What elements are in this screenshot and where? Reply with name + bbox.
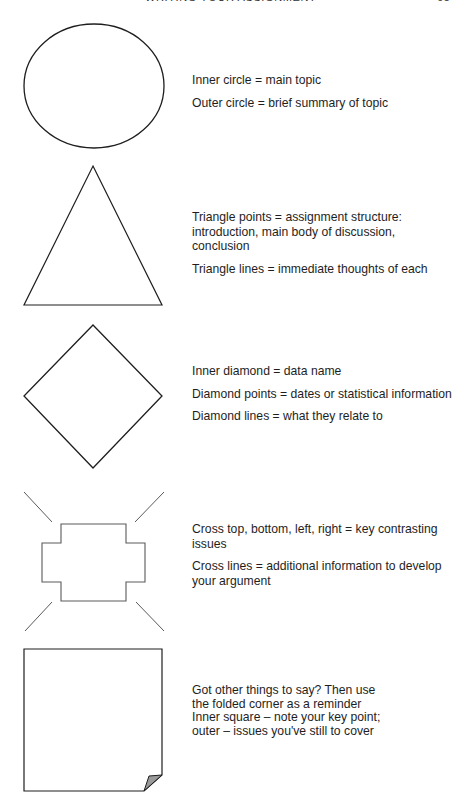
circle-shape	[24, 24, 164, 148]
cross-line-bottom-right	[136, 602, 164, 631]
diamond-caption-line: Inner diamond = data name	[192, 364, 454, 379]
folded-square-caption-line: Got other things to say? Then use the fo…	[192, 684, 392, 711]
cross-outline	[42, 524, 145, 601]
triangle-caption: Triangle points = assignment structure: …	[192, 210, 454, 276]
folded-square-caption-line: Inner square – note your key point; oute…	[192, 711, 392, 738]
cross-caption: Cross top, bottom, left, right = key con…	[192, 522, 454, 588]
folded-square-shape	[24, 649, 162, 791]
folded-corner-icon	[144, 775, 162, 791]
cross-caption-line: Cross lines = additional information to …	[192, 559, 454, 588]
triangle-caption-line: Triangle points = assignment structure: …	[192, 210, 454, 254]
triangle-shape	[24, 166, 162, 305]
cross-shape	[24, 492, 164, 631]
cross-line-bottom-left	[25, 602, 52, 631]
circle-caption-line: Outer circle = brief summary of topic	[192, 96, 454, 111]
circle-caption-line: Inner circle = main topic	[192, 73, 454, 88]
folded-square-outline	[24, 649, 162, 791]
diamond-caption: Inner diamond = data name Diamond points…	[192, 364, 454, 424]
diamond-caption-line: Diamond points = dates or statistical in…	[192, 387, 454, 402]
cross-line-top-right	[135, 492, 164, 522]
folded-square-caption: Got other things to say? Then use the fo…	[192, 684, 392, 738]
circle-caption: Inner circle = main topic Outer circle =…	[192, 73, 454, 110]
triangle-caption-line: Triangle lines = immediate thoughts of e…	[192, 262, 454, 277]
cross-line-top-left	[24, 492, 52, 522]
diamond-caption-line: Diamond lines = what they relate to	[192, 409, 454, 424]
diamond-shape	[24, 325, 162, 468]
cross-caption-line: Cross top, bottom, left, right = key con…	[192, 522, 454, 551]
